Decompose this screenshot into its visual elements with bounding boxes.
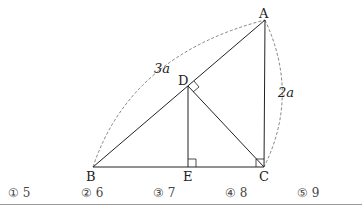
label-a: A	[258, 6, 269, 21]
choice-5[interactable]: ⑤ 9	[297, 186, 319, 200]
choice-value: 9	[312, 186, 320, 200]
choice-marker: ③	[153, 186, 164, 200]
choice-1[interactable]: ① 5	[8, 186, 30, 200]
divider	[0, 204, 362, 205]
choice-marker: ②	[81, 186, 92, 200]
choice-marker: ⑤	[297, 186, 308, 200]
choice-2[interactable]: ② 6	[81, 186, 103, 200]
length-label-ab: 3a	[154, 61, 170, 76]
geometry-figure: A B C D E 3a 2a	[0, 0, 362, 217]
label-b: B	[86, 169, 96, 184]
answer-choices: ① 5 ② 6 ③ 7 ④ 8 ⑤ 9	[0, 186, 362, 202]
choice-value: 5	[23, 186, 31, 200]
choice-3[interactable]: ③ 7	[153, 186, 175, 200]
label-d: D	[178, 73, 188, 88]
segment-ab	[93, 20, 265, 167]
right-angle-mark-d	[193, 81, 199, 92]
label-c: C	[259, 169, 269, 184]
segment-ac	[264, 20, 265, 167]
choice-4[interactable]: ④ 8	[225, 186, 247, 200]
choice-marker: ①	[8, 186, 19, 200]
choice-value: 7	[168, 186, 176, 200]
right-angle-mark-e	[188, 159, 196, 167]
choice-marker: ④	[225, 186, 236, 200]
choice-value: 6	[96, 186, 104, 200]
segment-dc	[188, 86, 264, 167]
choice-value: 8	[240, 186, 248, 200]
label-e: E	[183, 169, 193, 184]
length-label-ac: 2a	[277, 85, 294, 100]
